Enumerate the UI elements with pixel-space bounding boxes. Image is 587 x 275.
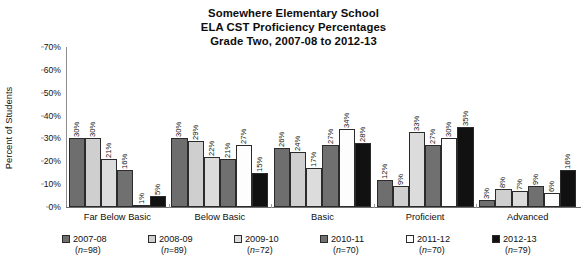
bar-slot: 27% <box>425 47 441 207</box>
chart-legend: 2007-08(n=98)2008-09(n=89)2009-10(n=72)2… <box>62 234 572 268</box>
bar-value-label: 21% <box>224 143 232 158</box>
bar-slot: 27% <box>236 47 252 207</box>
bar-slot: 15% <box>252 47 268 207</box>
legend-item-header: 2010-11 <box>320 234 364 244</box>
bar-slot: 5% <box>150 47 166 207</box>
bar[interactable]: 30% <box>441 138 457 207</box>
bar-value-label: 16% <box>121 154 129 169</box>
bar[interactable]: 27% <box>322 145 338 207</box>
bar-slot: 24% <box>290 47 306 207</box>
legend-item-header: 2007-08 <box>62 234 107 244</box>
bar-slot: 34% <box>339 47 355 207</box>
legend-series-name: 2009-10 <box>245 234 279 244</box>
bar-slot: 26% <box>274 47 290 207</box>
legend-item[interactable]: 2011-12(n=70) <box>406 234 450 255</box>
bar-value-label: 9% <box>532 174 540 185</box>
bar-value-label: 16% <box>564 154 572 169</box>
bar-slot: 29% <box>188 47 204 207</box>
bar[interactable]: 21% <box>220 159 236 207</box>
bar-slot: 28% <box>355 47 371 207</box>
bar[interactable]: 15% <box>252 173 268 207</box>
bar-value-label: 33% <box>413 115 421 130</box>
y-axis-tick-mark <box>41 184 44 185</box>
x-axis-group-tick <box>169 204 170 208</box>
y-axis-tick-label: 70% <box>44 42 66 52</box>
bar[interactable]: 12% <box>377 180 393 207</box>
bar[interactable]: 27% <box>236 145 252 207</box>
legend-color-swatch <box>320 235 328 243</box>
y-axis-tick-mark <box>41 47 44 48</box>
bar[interactable]: 30% <box>69 138 85 207</box>
bar-value-label: 8% <box>499 177 507 188</box>
legend-item[interactable]: 2007-08(n=98) <box>62 234 107 255</box>
legend-series-name: 2011-12 <box>417 234 450 244</box>
bar[interactable]: 34% <box>339 129 355 207</box>
bar[interactable]: 22% <box>204 157 220 207</box>
bar[interactable]: 16% <box>117 170 133 207</box>
bar-value-label: 3% <box>483 188 491 199</box>
bar[interactable]: 33% <box>409 132 425 207</box>
bar-slot: 16% <box>117 47 133 207</box>
bar-value-label: 27% <box>327 129 335 144</box>
chart-title: Somewhere Elementary School ELA CST Prof… <box>0 6 587 49</box>
y-axis-tick-mark <box>41 92 44 93</box>
bar[interactable]: 30% <box>171 138 187 207</box>
legend-series-count: (n=70) <box>419 245 450 255</box>
bar[interactable]: 27% <box>425 145 441 207</box>
bar[interactable]: 29% <box>188 141 204 207</box>
bar-value-label: 21% <box>105 143 113 158</box>
bar-value-label: 35% <box>462 111 470 126</box>
bar-value-label: 34% <box>343 113 351 128</box>
bar-value-label: 5% <box>154 184 162 195</box>
bar[interactable]: 28% <box>355 143 371 207</box>
y-axis-tick-mark <box>41 161 44 162</box>
legend-item[interactable]: 2008-09(n=89) <box>148 234 193 255</box>
bar[interactable]: 9% <box>528 186 544 207</box>
bar[interactable]: 3% <box>479 200 495 207</box>
bar[interactable]: 30% <box>85 138 101 207</box>
y-axis-tick-mark <box>46 207 49 208</box>
y-axis-tick-label: 0% <box>49 202 66 212</box>
bar[interactable]: 9% <box>393 186 409 207</box>
bar-slot: 30% <box>171 47 187 207</box>
y-axis-tick-mark <box>41 69 44 70</box>
bar-value-label: 27% <box>429 129 437 144</box>
bar-slot: 22% <box>204 47 220 207</box>
legend-series-name: 2012-13 <box>503 234 537 244</box>
bar-slot: 8% <box>495 47 511 207</box>
bar[interactable]: 7% <box>512 191 528 207</box>
bar[interactable]: 16% <box>560 170 576 207</box>
bar-slot: 1% <box>133 47 149 207</box>
bar-slot: 35% <box>457 47 473 207</box>
bar[interactable]: 21% <box>101 159 117 207</box>
bar-group: 30%30%21%16%1%5% <box>66 47 169 207</box>
bar-value-label: 27% <box>240 129 248 144</box>
bar-group-bars: 3%8%7%9%6%16% <box>476 47 579 207</box>
legend-series-count: (n=79) <box>505 245 537 255</box>
plot-area: 0%10%20%30%40%50%60%70%30%30%21%16%1%5%3… <box>66 47 579 207</box>
bar-slot: 3% <box>479 47 495 207</box>
legend-item[interactable]: 2012-13(n=79) <box>492 234 537 255</box>
bar-group: 30%29%22%21%27%15% <box>169 47 272 207</box>
bar[interactable]: 5% <box>150 196 166 207</box>
legend-series-name: 2010-11 <box>331 234 364 244</box>
bar-slot: 17% <box>306 47 322 207</box>
x-axis-group-tick <box>476 204 477 208</box>
y-axis-title: Percent of Students <box>3 87 14 169</box>
x-axis-category-label: Proficient <box>374 212 477 222</box>
bar-group-bars: 30%30%21%16%1%5% <box>66 47 169 207</box>
legend-item[interactable]: 2009-10(n=72) <box>234 234 279 255</box>
bar[interactable]: 35% <box>457 127 473 207</box>
bar[interactable]: 24% <box>290 152 306 207</box>
bar[interactable]: 17% <box>306 168 322 207</box>
bar[interactable]: 1% <box>133 205 149 207</box>
bar-value-label: 30% <box>89 122 97 137</box>
legend-item-header: 2012-13 <box>492 234 537 244</box>
bar-slot: 30% <box>85 47 101 207</box>
bar[interactable]: 6% <box>544 193 560 207</box>
legend-color-swatch <box>234 235 242 243</box>
bar[interactable]: 26% <box>274 148 290 207</box>
legend-item[interactable]: 2010-11(n=70) <box>320 234 364 255</box>
bar[interactable]: 8% <box>495 189 511 207</box>
bar-slot: 9% <box>393 47 409 207</box>
